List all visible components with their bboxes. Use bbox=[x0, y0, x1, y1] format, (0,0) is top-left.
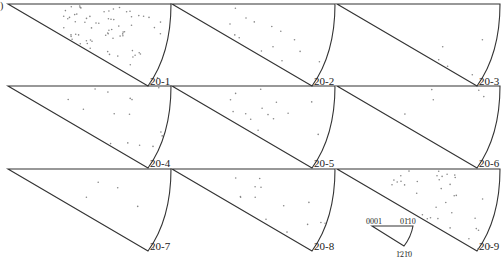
orientation-point bbox=[235, 93, 237, 95]
orientation-point bbox=[257, 129, 259, 131]
orientation-point bbox=[126, 11, 128, 13]
orientation-point bbox=[391, 184, 393, 186]
orientation-point bbox=[75, 21, 77, 23]
orientation-point bbox=[259, 178, 261, 180]
panel-label: 20-2 bbox=[314, 75, 334, 87]
orientation-point bbox=[271, 26, 273, 28]
orientation-point bbox=[90, 39, 92, 41]
orientation-point bbox=[238, 37, 240, 39]
orientation-point bbox=[442, 46, 444, 48]
orientation-point bbox=[324, 222, 326, 224]
orientation-point bbox=[109, 54, 111, 56]
orientation-point bbox=[287, 113, 289, 115]
orientation-point bbox=[113, 113, 115, 115]
orientation-point bbox=[161, 135, 163, 137]
orientation-point bbox=[84, 21, 86, 23]
orientation-point bbox=[474, 217, 476, 219]
orientation-point bbox=[437, 218, 439, 220]
orientation-point bbox=[113, 19, 115, 21]
pole-figure-panel: 20-1 bbox=[8, 4, 171, 89]
orientation-point bbox=[108, 29, 110, 31]
orientation-point bbox=[154, 27, 156, 29]
orientation-point bbox=[299, 51, 301, 53]
orientation-point bbox=[118, 25, 120, 27]
orientation-point bbox=[160, 131, 162, 133]
orientation-point bbox=[446, 173, 448, 175]
orientation-point bbox=[404, 184, 406, 186]
orientation-point bbox=[404, 113, 406, 115]
panel-label: 20-1 bbox=[150, 75, 170, 87]
orientation-point bbox=[94, 88, 96, 90]
legend-triangle: 0001 01̄10 1̄21̄0 bbox=[366, 217, 416, 259]
orientation-point bbox=[89, 16, 91, 18]
pole-figure-panel: 20-8 bbox=[172, 169, 335, 252]
orientation-point bbox=[148, 17, 150, 19]
orientation-point bbox=[319, 61, 321, 63]
orientation-point bbox=[138, 15, 140, 17]
orientation-point bbox=[129, 114, 131, 116]
orientation-point bbox=[129, 10, 131, 12]
orientation-point bbox=[124, 31, 126, 33]
orientation-point bbox=[454, 177, 456, 179]
orientation-point bbox=[110, 143, 112, 145]
orientation-point bbox=[63, 27, 65, 29]
orientation-point bbox=[250, 118, 252, 120]
orientation-point bbox=[107, 91, 109, 93]
orientation-point bbox=[103, 11, 105, 13]
orientation-point bbox=[431, 89, 433, 91]
stereographic-triangle bbox=[172, 86, 335, 168]
orientation-point bbox=[261, 108, 263, 110]
orientation-point bbox=[87, 43, 89, 45]
orientation-point bbox=[449, 227, 451, 229]
orientation-point bbox=[79, 7, 81, 9]
orientation-point bbox=[131, 24, 133, 26]
orientation-point bbox=[76, 13, 78, 15]
orientation-point bbox=[254, 21, 256, 23]
stereographic-triangle bbox=[8, 169, 171, 251]
orientation-point bbox=[117, 55, 119, 57]
panel-label: 20-9 bbox=[479, 240, 500, 252]
orientation-point bbox=[436, 175, 438, 177]
orientation-point bbox=[67, 99, 69, 101]
orientation-point bbox=[280, 30, 282, 32]
orientation-point bbox=[230, 99, 232, 101]
orientation-point bbox=[478, 90, 480, 92]
orientation-point bbox=[422, 214, 424, 216]
orientation-point bbox=[235, 177, 237, 179]
orientation-point bbox=[430, 217, 432, 219]
orientation-point bbox=[435, 206, 437, 208]
orientation-point bbox=[71, 38, 73, 40]
legend-label-01-10: 01̄10 bbox=[400, 217, 416, 226]
orientation-point bbox=[400, 180, 402, 182]
orientation-point bbox=[416, 193, 418, 195]
orientation-point bbox=[89, 47, 91, 49]
stereographic-triangle bbox=[172, 169, 335, 251]
orientation-point bbox=[105, 35, 107, 37]
orientation-point bbox=[245, 17, 247, 19]
legend-label-12-10: 1̄21̄0 bbox=[396, 250, 412, 259]
inverse-pole-figure-grid: ) 20-120-220-320-420-520-620-720-820-9 0… bbox=[0, 0, 503, 261]
orientation-point bbox=[78, 34, 80, 36]
pole-figure-panel: 20-7 bbox=[8, 169, 171, 252]
pole-figure-panel: 20-2 bbox=[172, 4, 335, 87]
orientation-point bbox=[91, 27, 93, 29]
orientation-point bbox=[122, 35, 124, 37]
orientation-point bbox=[307, 224, 309, 226]
orientation-point bbox=[427, 218, 429, 220]
orientation-point bbox=[276, 102, 278, 104]
panel-label-fragment: ) bbox=[0, 0, 3, 12]
orientation-point bbox=[130, 64, 132, 66]
orientation-point bbox=[320, 222, 322, 224]
orientation-point bbox=[482, 39, 484, 41]
orientation-point bbox=[272, 46, 274, 48]
orientation-point bbox=[129, 98, 131, 100]
stereographic-triangle bbox=[337, 169, 500, 251]
orientation-point bbox=[417, 181, 419, 183]
orientation-point bbox=[152, 146, 154, 148]
panel-label: 20-3 bbox=[479, 75, 500, 87]
orientation-point bbox=[438, 59, 440, 61]
orientation-point bbox=[393, 179, 395, 181]
orientation-point bbox=[79, 5, 81, 7]
orientation-point bbox=[245, 113, 247, 115]
orientation-point bbox=[286, 231, 288, 233]
